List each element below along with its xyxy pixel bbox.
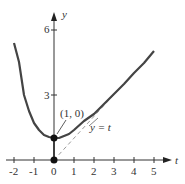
x-ticks — [14, 30, 154, 163]
y-axis-label: y — [61, 8, 67, 20]
svg-text:4: 4 — [131, 165, 137, 177]
chart: -2 -1 0 1 2 3 4 5 3 6 t y (1, 0) y = t — [0, 0, 185, 184]
point-origin — [51, 157, 58, 164]
x-tick-labels: -2 -1 0 1 2 3 4 5 — [9, 165, 157, 177]
y-axis-arrow-icon — [51, 12, 57, 21]
curve — [14, 43, 154, 138]
svg-text:-1: -1 — [29, 165, 38, 177]
svg-text:6: 6 — [44, 23, 50, 35]
point-min — [51, 135, 58, 142]
svg-text:-2: -2 — [9, 165, 18, 177]
annotation-point: (1, 0) — [60, 107, 84, 120]
x-axis-arrow-icon — [163, 157, 172, 163]
svg-text:5: 5 — [151, 165, 157, 177]
svg-text:0: 0 — [51, 165, 57, 177]
svg-text:2: 2 — [91, 165, 97, 177]
svg-text:3: 3 — [44, 89, 50, 101]
x-axis-label: t — [175, 154, 179, 166]
annotation-leader — [57, 120, 66, 134]
y-tick-labels: 3 6 — [44, 23, 50, 101]
svg-text:1: 1 — [71, 165, 77, 177]
svg-text:3: 3 — [111, 165, 117, 177]
